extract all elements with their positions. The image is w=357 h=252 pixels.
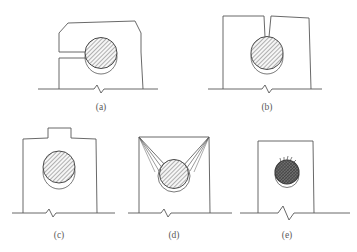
figure-background <box>0 0 357 252</box>
panel-b-caption: (b) <box>261 102 272 113</box>
panel-d-caption: (d) <box>168 230 179 241</box>
figure-container: (a) (b) (c) <box>0 0 357 252</box>
panel-a-caption: (a) <box>96 102 107 113</box>
panel-b-weld-nugget <box>251 37 283 70</box>
panel-d-weld-nugget <box>160 160 189 189</box>
panel-e-weld-nugget <box>275 160 299 184</box>
panel-c-caption: (c) <box>54 230 65 241</box>
weld-defect-figure: (a) (b) (c) <box>0 0 357 252</box>
panel-a-weld-nugget <box>85 38 117 69</box>
panel-c-weld-nugget <box>43 151 75 183</box>
panel-e-caption: (e) <box>282 230 293 241</box>
